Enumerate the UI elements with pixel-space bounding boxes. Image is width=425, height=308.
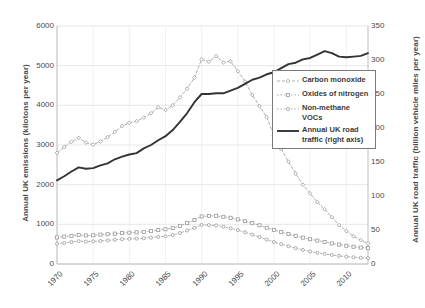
data-point — [359, 256, 362, 259]
data-point — [366, 247, 369, 250]
legend-item-2: Non-methane VOCs — [276, 103, 372, 122]
data-point — [243, 231, 246, 234]
data-point — [222, 225, 225, 228]
data-point — [106, 233, 109, 236]
data-point — [280, 243, 283, 246]
data-point — [63, 235, 66, 238]
data-point — [99, 140, 103, 144]
data-point — [323, 252, 326, 255]
data-point — [193, 226, 196, 229]
data-point — [287, 245, 290, 248]
data-point — [55, 242, 58, 245]
data-point — [207, 60, 211, 64]
data-point — [338, 254, 341, 257]
data-point — [193, 76, 197, 80]
chart-legend: Carbon monoxideOxides of nitrogenNon-met… — [272, 70, 376, 149]
data-point — [84, 141, 88, 145]
data-point — [359, 246, 362, 249]
plot-area — [0, 0, 425, 308]
data-point — [171, 227, 174, 230]
data-point — [207, 214, 210, 217]
data-point — [171, 233, 174, 236]
data-point — [309, 250, 312, 253]
data-point — [128, 237, 131, 240]
data-point — [222, 215, 225, 218]
data-point — [121, 232, 124, 235]
data-point — [113, 232, 116, 235]
legend-swatch-icon — [276, 126, 300, 136]
data-point — [236, 229, 239, 232]
data-point — [236, 218, 239, 221]
data-point — [265, 238, 268, 241]
data-point — [215, 214, 218, 217]
data-point — [280, 231, 283, 234]
data-point — [301, 248, 304, 251]
data-point — [63, 241, 66, 244]
data-point — [265, 226, 268, 229]
data-point — [84, 234, 87, 237]
data-point — [55, 236, 58, 239]
data-point — [164, 228, 167, 231]
data-point — [215, 224, 218, 227]
data-point — [309, 238, 312, 241]
series-line-1 — [57, 216, 368, 248]
legend-label: Carbon monoxide — [302, 75, 366, 85]
data-point — [70, 240, 73, 243]
data-point — [70, 234, 73, 237]
data-point — [243, 220, 246, 223]
data-point — [178, 224, 181, 227]
data-point — [352, 256, 355, 259]
data-point — [77, 136, 81, 140]
data-point — [91, 143, 95, 147]
data-point — [272, 240, 275, 243]
data-point — [77, 240, 80, 243]
data-point — [229, 216, 232, 219]
legend-label: Oxides of nitrogen — [302, 89, 368, 99]
data-point — [258, 235, 261, 238]
data-point — [142, 116, 146, 120]
data-point — [207, 224, 210, 227]
data-point — [338, 243, 341, 246]
data-point — [142, 237, 145, 240]
data-point — [229, 227, 232, 230]
data-point — [157, 235, 160, 238]
data-point — [128, 231, 131, 234]
legend-item-1: Oxides of nitrogen — [276, 89, 372, 100]
data-point — [99, 239, 102, 242]
legend-swatch-icon — [276, 90, 300, 100]
data-point — [142, 230, 145, 233]
data-point — [221, 61, 225, 65]
data-point — [345, 244, 348, 247]
data-point — [200, 223, 203, 226]
data-point — [149, 236, 152, 239]
data-point — [178, 232, 181, 235]
data-point — [127, 121, 131, 125]
legend-swatch-icon — [276, 76, 300, 86]
data-point — [366, 242, 370, 246]
data-point — [294, 247, 297, 250]
data-point — [272, 228, 275, 231]
data-point — [92, 240, 95, 243]
data-point — [113, 238, 116, 241]
data-point — [258, 224, 261, 227]
data-point — [92, 234, 95, 237]
legend-swatch-icon — [276, 104, 300, 114]
data-point — [200, 57, 204, 61]
data-point — [157, 229, 160, 232]
legend-item-0: Carbon monoxide — [276, 75, 372, 86]
data-point — [287, 160, 291, 164]
data-point — [135, 237, 138, 240]
data-point — [251, 233, 254, 236]
legend-label: Non-methane VOCs — [302, 103, 372, 122]
data-point — [193, 218, 196, 221]
data-point — [294, 234, 297, 237]
data-point — [316, 251, 319, 254]
chart-figure: Annual UK emissions (kilotons per year) … — [0, 0, 425, 308]
data-point — [352, 245, 355, 248]
data-point — [345, 255, 348, 258]
legend-item-3: Annual UK road traffic (right axis) — [276, 125, 372, 144]
data-point — [149, 230, 152, 233]
data-point — [121, 238, 124, 241]
data-point — [316, 239, 319, 242]
data-point — [106, 239, 109, 242]
